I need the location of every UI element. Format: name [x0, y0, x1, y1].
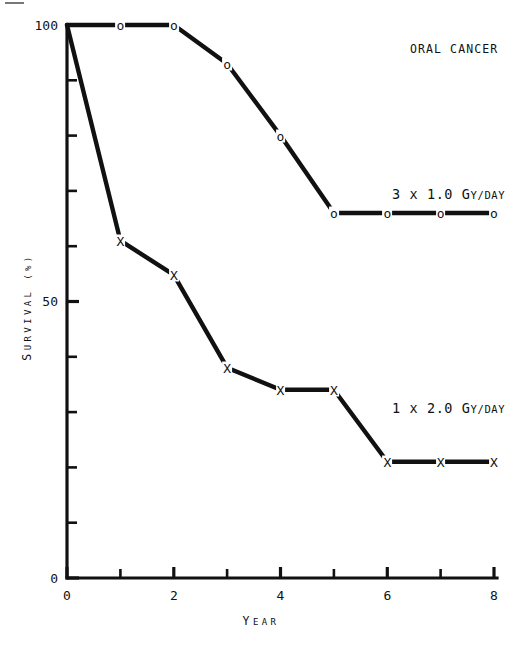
data-point-marker: o [276, 129, 286, 142]
data-point-marker: X [489, 455, 499, 468]
x-tick-label-2: 2 [157, 588, 191, 603]
data-point-marker: o [489, 207, 499, 220]
y-axis-title-head: S [20, 350, 34, 360]
series-label-lower: 1 x 2.0 GY/DAY [392, 400, 505, 416]
plot-canvas [0, 0, 522, 646]
x-tick-label-4: 4 [264, 588, 298, 603]
series-label-upper-dose: 3 x 1.0 G [392, 186, 471, 202]
y-axis-title: SURVIVAL (%) [20, 207, 34, 407]
survival-curve-figure: o o o o o o o o X X X X X X X X 100 50 0… [0, 0, 522, 646]
x-tick-label-6: 6 [370, 588, 404, 603]
x-axis-major-ticks [67, 567, 494, 578]
data-point-marker: o [329, 207, 339, 220]
y-axis-title-paren-close: ) [23, 253, 33, 262]
x-axis-title-head: Y [243, 614, 253, 628]
axis-spines [67, 25, 497, 578]
data-point-marker: X [169, 268, 179, 281]
data-point-marker: X [276, 383, 286, 396]
data-point-marker: o [169, 19, 179, 32]
data-point-marker: X [329, 383, 339, 396]
data-point-marker: o [115, 19, 125, 32]
data-point-marker: X [115, 234, 125, 247]
data-point-marker: o [382, 207, 392, 220]
y-axis-title-paren-open: ( [23, 271, 33, 280]
y-axis-major-ticks [67, 25, 79, 578]
data-point-marker: X [436, 455, 446, 468]
chart-title: ORAL CANCER [410, 42, 498, 56]
data-point-marker: X [382, 455, 392, 468]
series-label-upper-unit: Y/DAY [471, 189, 506, 201]
data-point-marker: o [436, 207, 446, 220]
y-tick-label-0: 0 [18, 571, 58, 586]
x-tick-label-0: 0 [50, 588, 84, 603]
series-label-upper: 3 x 1.0 GY/DAY [392, 186, 505, 202]
data-point-marker: X [222, 361, 232, 374]
y-axis-title-rest: URVIVAL [23, 280, 33, 351]
y-tick-label-100: 100 [18, 18, 58, 33]
x-axis-title-rest: EAR [253, 617, 279, 627]
series-label-lower-unit: Y/DAY [471, 403, 506, 415]
y-axis-title-unit: % [23, 262, 33, 271]
x-tick-label-8: 8 [477, 588, 511, 603]
data-point-marker: o [222, 57, 232, 70]
series-label-lower-dose: 1 x 2.0 G [392, 400, 471, 416]
x-axis-title: YEAR [0, 614, 522, 628]
